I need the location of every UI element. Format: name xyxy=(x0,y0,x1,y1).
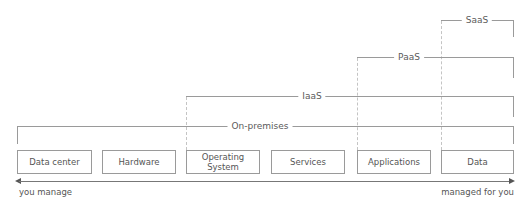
layer-services: Services xyxy=(271,150,345,174)
layer-operating-system: Operating System xyxy=(186,150,260,174)
bracket-label-iaas: IaaS xyxy=(298,91,325,101)
axis-line xyxy=(19,181,511,182)
guide-line-saas xyxy=(441,21,442,150)
layer-applications: Applications xyxy=(357,150,431,174)
layer-data: Data xyxy=(441,150,514,174)
guide-line-paas xyxy=(357,58,358,150)
layer-hardware: Hardware xyxy=(102,150,176,174)
arrow-right-icon xyxy=(509,178,515,184)
layer-operating-system-label: Operating System xyxy=(196,152,250,172)
axis-label-managed-for-you: managed for you xyxy=(441,187,514,197)
bracket-label-paas: PaaS xyxy=(394,52,424,62)
bracket-label-on-premises: On-premises xyxy=(228,121,293,131)
axis-label-you-manage: you manage xyxy=(19,187,72,197)
guide-line-iaas xyxy=(186,97,187,150)
layer-data-center: Data center xyxy=(17,150,92,174)
bracket-label-saas: SaaS xyxy=(462,15,492,25)
